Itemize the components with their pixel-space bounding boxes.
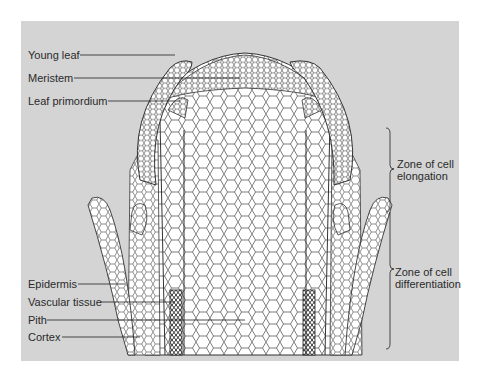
- label-pith: Pith: [28, 314, 47, 326]
- zone-braces: [386, 128, 394, 349]
- label-epidermis: Epidermis: [28, 278, 77, 290]
- zone-elongation-line1: Zone of cell: [397, 158, 454, 170]
- label-vascular-tissue: Vascular tissue: [28, 296, 102, 308]
- zone-differentiation-label: Zone of cell differentiation: [395, 266, 461, 290]
- label-leaf-primordium: Leaf primordium: [28, 95, 107, 107]
- zone-differentiation-line2: differentiation: [395, 278, 461, 290]
- lower-leaf-left: [88, 197, 135, 355]
- zone-elongation-line2: elongation: [397, 170, 454, 182]
- label-meristem: Meristem: [28, 72, 73, 84]
- zone-differentiation-line1: Zone of cell: [395, 266, 461, 278]
- label-young-leaf: Young leaf: [28, 49, 80, 61]
- label-cortex: Cortex: [28, 331, 60, 343]
- zone-elongation-label: Zone of cell elongation: [397, 158, 454, 182]
